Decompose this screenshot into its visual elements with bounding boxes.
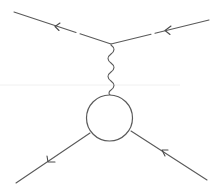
fermion-line-top-right xyxy=(111,20,209,44)
interaction-blob-circle xyxy=(87,95,133,141)
fermion-line-top-left xyxy=(14,12,111,44)
photon-propagator-wavy-line xyxy=(108,45,114,95)
fermion-line-bottom-left xyxy=(16,133,90,183)
fermion-line-bottom-right xyxy=(131,131,207,180)
feynman-diagram xyxy=(0,0,222,192)
